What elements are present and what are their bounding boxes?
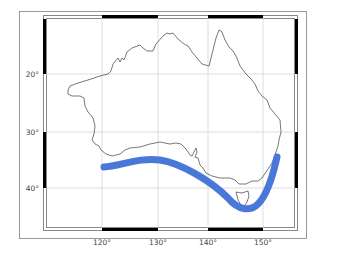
lon-label-120: 120° xyxy=(93,238,111,247)
longitude-labels: 120° 130° 140° 150° xyxy=(93,238,272,247)
lon-label-130: 130° xyxy=(149,238,167,247)
lat-label-30: 30° xyxy=(26,128,40,137)
lat-label-20: 20° xyxy=(26,70,40,79)
lon-label-150: 150° xyxy=(254,238,272,247)
lat-label-40: 40° xyxy=(26,184,40,193)
latitude-labels: 20° 30° 40° xyxy=(26,70,40,193)
australia-map: 120° 130° 140° 150° 20° 30° 40° xyxy=(0,0,340,264)
map-frame-inner xyxy=(47,19,295,228)
lon-label-140: 140° xyxy=(199,238,217,247)
